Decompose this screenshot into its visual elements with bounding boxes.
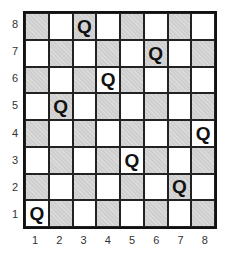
square-7-6[interactable] <box>168 67 192 94</box>
square-7-7[interactable] <box>168 40 192 67</box>
square-5-7[interactable] <box>120 40 144 67</box>
file-label: 4 <box>96 234 120 246</box>
square-6-7[interactable]: Q <box>144 40 168 67</box>
queen-piece[interactable]: Q <box>172 177 187 196</box>
square-8-2[interactable] <box>191 174 215 201</box>
square-6-4[interactable] <box>144 120 168 147</box>
square-2-4[interactable] <box>49 120 73 147</box>
square-1-4[interactable] <box>25 120 49 147</box>
square-4-4[interactable] <box>96 120 120 147</box>
queen-piece[interactable]: Q <box>124 151 139 170</box>
square-5-6[interactable] <box>120 67 144 94</box>
square-7-1[interactable] <box>168 200 192 227</box>
rank-label: 8 <box>10 18 20 30</box>
square-7-3[interactable] <box>168 147 192 174</box>
square-8-6[interactable] <box>191 67 215 94</box>
square-4-6[interactable]: Q <box>96 67 120 94</box>
file-label: 1 <box>23 234 47 246</box>
rank-label: 7 <box>10 45 20 57</box>
file-label: 8 <box>193 234 217 246</box>
square-3-5[interactable] <box>73 93 97 120</box>
queen-piece[interactable]: Q <box>196 124 211 143</box>
square-5-5[interactable] <box>120 93 144 120</box>
file-label: 6 <box>144 234 168 246</box>
square-4-8[interactable] <box>96 13 120 40</box>
square-7-2[interactable]: Q <box>168 174 192 201</box>
square-5-2[interactable] <box>120 174 144 201</box>
square-1-7[interactable] <box>25 40 49 67</box>
square-4-5[interactable] <box>96 93 120 120</box>
square-7-8[interactable] <box>168 13 192 40</box>
square-8-7[interactable] <box>191 40 215 67</box>
square-7-5[interactable] <box>168 93 192 120</box>
rank-label: 6 <box>10 72 20 84</box>
square-5-1[interactable] <box>120 200 144 227</box>
chessboard: QQQQQQQQ <box>23 11 217 229</box>
queen-piece[interactable]: Q <box>53 97 68 116</box>
rank-label: 3 <box>10 154 20 166</box>
square-2-2[interactable] <box>49 174 73 201</box>
square-3-1[interactable] <box>73 200 97 227</box>
square-6-3[interactable] <box>144 147 168 174</box>
rank-label: 4 <box>10 127 20 139</box>
square-5-8[interactable] <box>120 13 144 40</box>
square-2-1[interactable] <box>49 200 73 227</box>
square-3-2[interactable] <box>73 174 97 201</box>
queen-piece[interactable]: Q <box>101 70 116 89</box>
square-7-4[interactable] <box>168 120 192 147</box>
square-4-3[interactable] <box>96 147 120 174</box>
square-5-3[interactable]: Q <box>120 147 144 174</box>
square-2-5[interactable]: Q <box>49 93 73 120</box>
square-6-5[interactable] <box>144 93 168 120</box>
rank-label: 2 <box>10 181 20 193</box>
square-2-3[interactable] <box>49 147 73 174</box>
square-8-8[interactable] <box>191 13 215 40</box>
square-3-6[interactable] <box>73 67 97 94</box>
file-label: 5 <box>120 234 144 246</box>
square-1-8[interactable] <box>25 13 49 40</box>
square-1-1[interactable]: Q <box>25 200 49 227</box>
square-6-2[interactable] <box>144 174 168 201</box>
square-1-3[interactable] <box>25 147 49 174</box>
square-6-1[interactable] <box>144 200 168 227</box>
rank-label: 5 <box>10 99 20 111</box>
square-3-3[interactable] <box>73 147 97 174</box>
square-1-2[interactable] <box>25 174 49 201</box>
square-6-6[interactable] <box>144 67 168 94</box>
square-8-3[interactable] <box>191 147 215 174</box>
queen-piece[interactable]: Q <box>148 44 163 63</box>
square-4-7[interactable] <box>96 40 120 67</box>
square-2-8[interactable] <box>49 13 73 40</box>
square-1-6[interactable] <box>25 67 49 94</box>
square-4-2[interactable] <box>96 174 120 201</box>
rank-label: 1 <box>10 208 20 220</box>
square-2-6[interactable] <box>49 67 73 94</box>
square-4-1[interactable] <box>96 200 120 227</box>
square-2-7[interactable] <box>49 40 73 67</box>
square-1-5[interactable] <box>25 93 49 120</box>
file-label: 3 <box>72 234 96 246</box>
queen-piece[interactable]: Q <box>77 17 92 36</box>
square-8-4[interactable]: Q <box>191 120 215 147</box>
file-label: 2 <box>47 234 71 246</box>
file-label: 7 <box>169 234 193 246</box>
square-5-4[interactable] <box>120 120 144 147</box>
square-8-5[interactable] <box>191 93 215 120</box>
square-3-7[interactable] <box>73 40 97 67</box>
square-3-4[interactable] <box>73 120 97 147</box>
square-6-8[interactable] <box>144 13 168 40</box>
queen-piece[interactable]: Q <box>29 204 44 223</box>
square-3-8[interactable]: Q <box>73 13 97 40</box>
square-8-1[interactable] <box>191 200 215 227</box>
